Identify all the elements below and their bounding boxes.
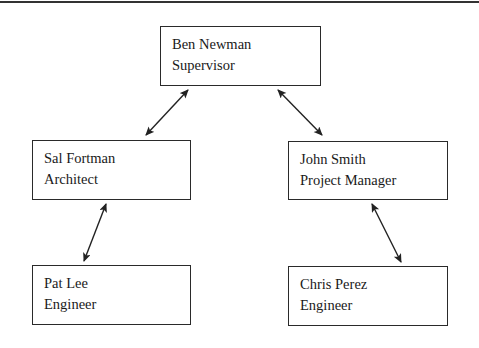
arrow-sal-pat (84, 204, 106, 261)
node-john-smith: John Smith Project Manager (288, 141, 448, 200)
arrow-ben-sal (146, 90, 188, 135)
node-role: Engineer (300, 295, 447, 316)
node-name: Sal Fortman (44, 148, 190, 169)
top-rule-divider (0, 1, 479, 3)
node-name: Ben Newman (172, 34, 320, 55)
node-sal-fortman: Sal Fortman Architect (32, 140, 191, 200)
node-name: Chris Perez (300, 274, 447, 295)
node-role: Engineer (44, 294, 190, 315)
arrow-ben-john (278, 90, 322, 135)
node-role: Project Manager (300, 170, 447, 191)
node-name: John Smith (300, 149, 447, 170)
node-ben-newman: Ben Newman Supervisor (160, 26, 321, 86)
arrow-john-chris (372, 204, 401, 262)
node-name: Pat Lee (44, 273, 190, 294)
node-pat-lee: Pat Lee Engineer (32, 265, 191, 325)
node-chris-perez: Chris Perez Engineer (288, 266, 448, 326)
node-role: Architect (44, 169, 190, 190)
node-role: Supervisor (172, 55, 320, 76)
